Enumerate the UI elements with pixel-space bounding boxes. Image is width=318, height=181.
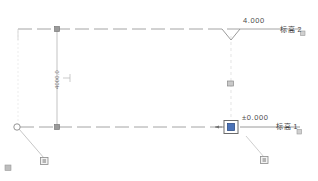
level-1-arrow-icon bbox=[215, 125, 224, 128]
level-head-grip-inner[interactable] bbox=[228, 124, 235, 131]
square-grip-reference-mid[interactable] bbox=[228, 81, 234, 86]
corner-mark-icon bbox=[5, 165, 11, 171]
level-2-elevation-value: 4.000 bbox=[243, 16, 265, 25]
level-2-name[interactable]: 标高 2 bbox=[280, 24, 302, 34]
drag-leader-right[interactable] bbox=[246, 136, 264, 157]
square-grip-drag-lower-left[interactable] bbox=[41, 158, 49, 165]
drag-leader-left[interactable] bbox=[19, 129, 44, 158]
square-grip-dim-bottom[interactable] bbox=[55, 125, 60, 130]
square-grip-level-head-selected[interactable] bbox=[224, 121, 238, 134]
square-grip-drag-lower-right[interactable] bbox=[261, 157, 269, 164]
level-1-elevation-value: ±0.000 bbox=[242, 113, 269, 122]
dimension-value-text[interactable]: 4000.0 bbox=[54, 70, 60, 89]
square-grip-dim-top[interactable] bbox=[55, 27, 60, 32]
round-grip-left[interactable] bbox=[14, 124, 20, 130]
drawing-canvas[interactable] bbox=[0, 0, 318, 181]
level-1-name[interactable]: 标高 1 bbox=[276, 121, 298, 131]
